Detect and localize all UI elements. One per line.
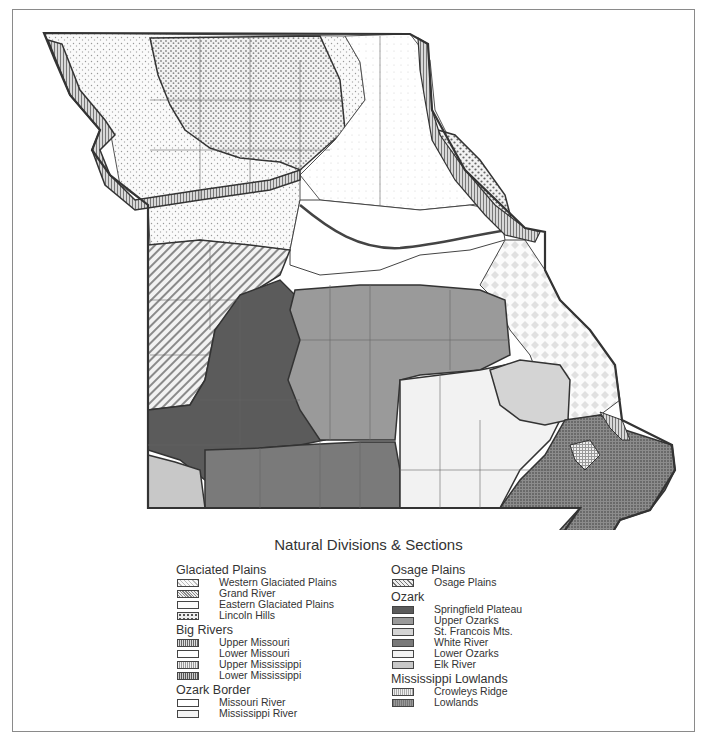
- region-white-river: [205, 442, 400, 508]
- legend-group-glaciated-plains: Glaciated Plains: [176, 563, 337, 577]
- lincoln-hills-swatch: [177, 612, 199, 620]
- legend-item: Lincoln Hills: [176, 610, 337, 621]
- legend-group-ozark: Ozark: [391, 590, 522, 604]
- legend-item: Mississippi River: [176, 708, 337, 719]
- legend-group-ozark-border: Ozark Border: [176, 683, 337, 697]
- springfield-plateau-swatch: [392, 606, 414, 614]
- lower-mississippi-swatch: [177, 672, 199, 680]
- legend-column-left: Glaciated Plains Western Glaciated Plain…: [176, 563, 337, 719]
- lower-ozarks-swatch: [392, 650, 414, 658]
- legend-group-big-rivers: Big Rivers: [176, 623, 337, 637]
- legend-item: Lower Mississippi: [176, 670, 337, 681]
- mississippi-river-swatch: [177, 710, 199, 718]
- legend-column-right: Osage Plains Osage Plains Ozark Springfi…: [391, 563, 522, 708]
- elk-river-swatch: [392, 661, 414, 669]
- st-francois-mts-swatch: [392, 628, 414, 636]
- upper-ozarks-swatch: [392, 617, 414, 625]
- lowlands-swatch: [392, 699, 414, 707]
- grand-river-swatch: [177, 590, 199, 598]
- western-glaciated-plains-swatch: [177, 579, 199, 587]
- upper-missouri-swatch: [177, 639, 199, 647]
- missouri-natural-divisions-map: [0, 0, 707, 530]
- upper-mississippi-swatch: [177, 661, 199, 669]
- region-ozark-border-missouri: [290, 200, 505, 275]
- legend-title: Natural Divisions & Sections: [0, 536, 707, 553]
- eastern-glaciated-plains-swatch: [177, 601, 199, 609]
- white-river-swatch: [392, 639, 414, 647]
- legend-item: Lowlands: [391, 697, 522, 708]
- missouri-river-swatch: [177, 699, 199, 707]
- legend-group-mississippi-lowlands: Mississippi Lowlands: [391, 672, 522, 686]
- legend-item: Elk River: [391, 659, 522, 670]
- legend-group-osage-plains: Osage Plains: [391, 563, 522, 577]
- legend-item: Osage Plains: [391, 577, 522, 588]
- osage-plains-swatch: [392, 579, 414, 587]
- lower-missouri-swatch: [177, 650, 199, 658]
- crowleys-ridge-swatch: [392, 688, 414, 696]
